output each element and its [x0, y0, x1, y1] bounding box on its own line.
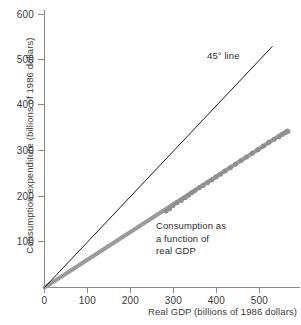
data-point [285, 129, 290, 134]
data-point [193, 188, 198, 193]
x-tick-label-0: 0 [30, 295, 59, 306]
x-tick-label-400: 400 [202, 295, 231, 306]
data-point [209, 178, 214, 183]
data-point [239, 158, 244, 163]
data-point [244, 154, 249, 159]
x-axis-ticks [45, 288, 260, 294]
x-tick-label-300: 300 [159, 295, 188, 306]
data-point [250, 151, 255, 156]
data-point [218, 172, 223, 177]
x-tick-label-100: 100 [73, 295, 102, 306]
forty-five-degree-line-label: 45° line [207, 50, 240, 63]
consumption-function-label: Consumption as a function of real GDP [156, 220, 226, 258]
data-point [228, 165, 233, 170]
x-axis-title: Real GDP (billions of 1986 dollars) [145, 306, 300, 317]
data-point [174, 200, 179, 205]
data-point [261, 143, 266, 148]
data-point [214, 174, 219, 179]
data-point [223, 169, 228, 174]
data-point [266, 140, 271, 145]
consumption-function-chart: 600 500 400 300 200 100 0 100 200 300 40… [0, 0, 301, 325]
y-tick-label-600: 600 [8, 9, 34, 20]
plot-area [0, 0, 301, 325]
consumption-label-line-3: real GDP [156, 245, 226, 258]
data-point [272, 137, 277, 142]
x-tick-label-200: 200 [116, 295, 145, 306]
y-axis-ticks [38, 15, 45, 242]
consumption-label-line-1: Consumption as [156, 220, 226, 233]
data-point [201, 183, 206, 188]
data-point [205, 180, 210, 185]
x-tick-label-500: 500 [245, 295, 274, 306]
consumption-label-line-2: a function of [156, 233, 226, 246]
y-axis-title: Consumption expenditure (billions of 198… [24, 21, 35, 271]
data-point [233, 162, 238, 167]
data-point [255, 147, 260, 152]
